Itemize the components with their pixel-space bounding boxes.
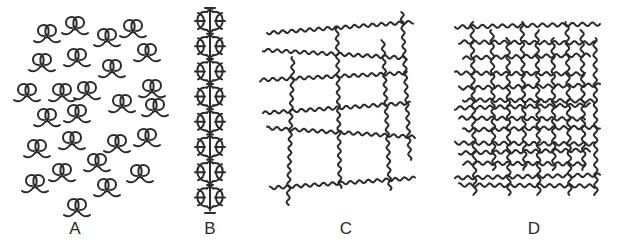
panel-c-loose-network [260,12,415,205]
network-strand [490,30,496,170]
panel-c-label: C [340,219,352,238]
coil-glyph [109,95,135,112]
network-strand [381,40,391,190]
panel-b-aligned-chain [195,8,225,213]
network-strand [455,173,600,179]
coil-glyph [29,54,55,71]
coil-glyph [14,84,40,101]
coil-glyph [127,165,153,182]
panel-a-isolated-coils [14,17,168,216]
network-strand [267,21,413,35]
network-strand [459,183,595,187]
network-strand [565,22,571,195]
chain-unit [195,58,225,84]
polymer-structures-figure: A B C D [0,0,621,251]
network-strand [463,53,590,59]
network-strand [459,40,595,44]
network-strand [459,83,600,89]
coil-glyph [94,179,120,196]
chain-unit [195,184,225,210]
network-strand [593,38,597,195]
panel-d-label: D [528,219,540,238]
network-strand [455,22,600,28]
coil-glyph [94,29,120,46]
chain-unit [195,84,225,110]
network-strand [463,98,595,103]
coil-glyph [104,135,130,152]
network-strand [270,177,415,190]
coil-glyph [120,20,146,37]
coil-glyph [99,60,125,77]
network-strand [506,38,510,195]
panel-d-dense-network [455,22,600,195]
coil-glyph [74,82,100,99]
coil-glyph [59,132,85,149]
coil-glyph [22,175,48,192]
panel-a-label: A [69,219,81,238]
coil-glyph [64,105,90,122]
coil-glyph [34,109,60,126]
coil-glyph [134,129,160,146]
coil-glyph [62,17,88,34]
coil-glyph [142,99,168,116]
coil-glyph [49,84,75,101]
coil-glyph [64,49,90,66]
coil-glyph [139,80,165,97]
coil-glyph [24,140,50,157]
coil-glyph [134,44,160,61]
coil-glyph [84,154,110,171]
network-strand [463,125,600,131]
coil-glyph [64,199,90,216]
panel-b-label: B [204,219,215,238]
chain-unit [195,134,225,160]
chain-unit [195,8,225,34]
chain-unit [195,159,225,185]
chain-unit [195,109,225,135]
chain-unit [195,33,225,59]
coil-glyph [49,164,75,181]
coil-glyph [34,25,60,42]
